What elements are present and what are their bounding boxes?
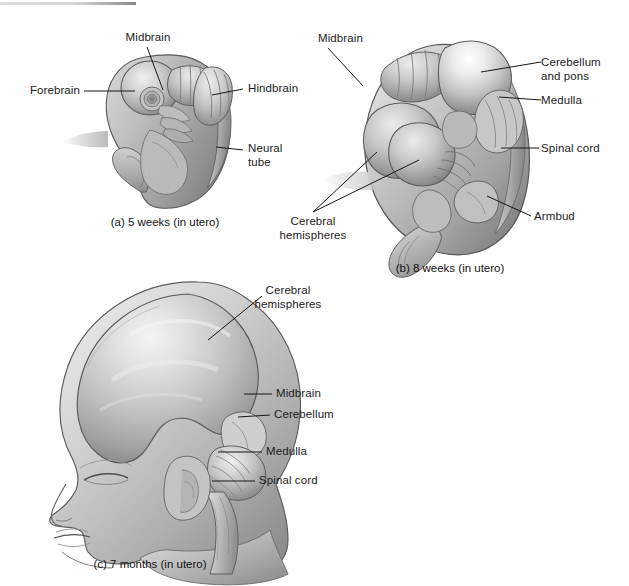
label-b-medulla: Medulla xyxy=(541,94,582,108)
label-c-cerebellum: Cerebellum xyxy=(274,408,334,422)
embryo-a-membrane xyxy=(62,131,108,147)
embryo-b-membrane xyxy=(321,171,373,190)
label-b-midbrain: Midbrain xyxy=(318,32,363,46)
caption-a: (a) 5 weeks (in utero) xyxy=(85,216,245,228)
label-b-spinal-cord: Spinal cord xyxy=(541,142,600,156)
label-b-cerebral-hemispheres: Cerebral hemispheres xyxy=(258,215,368,242)
label-c-medulla: Medulla xyxy=(266,445,307,459)
label-b-cerebellum-and-pons: Cerebellum and pons xyxy=(541,56,601,83)
label-c-cerebral-hemispheres: Cerebral hemispheres xyxy=(228,284,348,311)
caption-c: (c) 7 months (in utero) xyxy=(50,558,250,570)
label-c-spinal-cord: Spinal cord xyxy=(259,474,318,488)
label-a-neural-tube: Neural tube xyxy=(248,142,282,169)
figure-embryonic-brain-development: Midbrain Forebrain Hindbrain Neural tube… xyxy=(0,0,629,586)
leader-b-midbrain xyxy=(328,48,363,86)
panel-a-5-weeks: Midbrain Forebrain Hindbrain Neural tube… xyxy=(0,0,320,245)
panel-c-7-months: Cerebral hemispheres Midbrain Cerebellum… xyxy=(20,270,420,586)
label-c-midbrain: Midbrain xyxy=(276,387,321,401)
label-a-midbrain: Midbrain xyxy=(108,31,188,45)
label-a-forebrain: Forebrain xyxy=(0,84,80,98)
panel-b-8-weeks: Midbrain Cerebellum and pons Medulla Spi… xyxy=(285,0,629,285)
armbud-b xyxy=(454,181,498,223)
panel-c-illustration xyxy=(20,270,420,586)
label-b-armbud: Armbud xyxy=(534,210,575,224)
otic-vesicle-b xyxy=(443,111,478,148)
